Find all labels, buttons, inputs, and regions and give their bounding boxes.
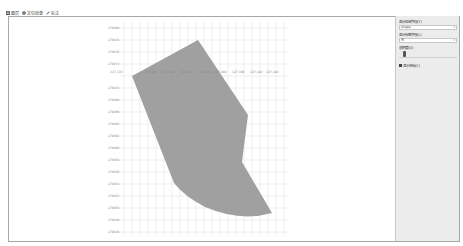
chevron-down-icon: ▾ <box>453 26 455 29</box>
svg-text:127.186: 127.186 <box>198 70 210 74</box>
slider-track <box>399 57 457 58</box>
area-field-value: shape <box>401 25 411 29</box>
svg-text:127.182: 127.182 <box>162 70 174 74</box>
svg-text:279074: 279074 <box>108 62 120 66</box>
svg-text:127.188: 127.188 <box>214 70 226 74</box>
svg-text:279058: 279058 <box>108 158 120 162</box>
checkbox-icon[interactable] <box>399 64 402 67</box>
svg-text:279076: 279076 <box>108 50 120 54</box>
svg-text:279056: 279056 <box>108 170 120 174</box>
map-plot[interactable]: 279080279078279076 279074279070279068 27… <box>0 0 463 246</box>
svg-text:279062: 279062 <box>108 134 120 138</box>
svg-text:279050: 279050 <box>108 206 120 210</box>
label-field-label: 显示标签字段(L) <box>399 32 422 37</box>
svg-text:279048: 279048 <box>108 218 120 222</box>
svg-text:279066: 279066 <box>108 110 120 114</box>
svg-text:279046: 279046 <box>108 230 120 234</box>
label-field-value: 无 <box>401 38 404 42</box>
svg-text:127.192: 127.192 <box>250 70 262 74</box>
svg-text:279054: 279054 <box>108 182 120 186</box>
transparency-slider[interactable] <box>399 51 457 56</box>
svg-text:127.194: 127.194 <box>266 70 278 74</box>
svg-text:279080: 279080 <box>108 26 120 30</box>
label-field-select[interactable]: 无 ▾ <box>399 38 457 43</box>
svg-text:279078: 279078 <box>108 38 120 42</box>
svg-text:279068: 279068 <box>108 98 120 102</box>
svg-text:279070: 279070 <box>108 86 120 90</box>
y-axis-labels: 279080279078279076 279074279070279068 27… <box>108 26 120 234</box>
svg-text:127.184: 127.184 <box>180 70 192 74</box>
svg-text:127.178: 127.178 <box>110 70 122 74</box>
slider-thumb[interactable] <box>403 51 406 57</box>
svg-text:279052: 279052 <box>108 194 120 198</box>
area-field-label: 显示区域字段(T) <box>399 19 422 24</box>
svg-text:279060: 279060 <box>108 146 120 150</box>
svg-text:127.190: 127.190 <box>232 70 244 74</box>
show-coordinates-checkbox[interactable]: 显示坐标(C) <box>399 63 420 68</box>
svg-text:279064: 279064 <box>108 122 120 126</box>
svg-text:127.180: 127.180 <box>144 70 156 74</box>
show-coordinates-label: 显示坐标(C) <box>403 63 420 68</box>
properties-panel: 显示区域字段(T) shape ▾ 显示标签字段(L) 无 ▾ 透明度(O) 显… <box>395 16 459 241</box>
area-field-select[interactable]: shape ▾ <box>399 25 457 30</box>
chevron-down-icon: ▾ <box>453 39 455 42</box>
transparency-label: 透明度(O) <box>399 45 414 50</box>
parcel-polygon <box>132 40 272 216</box>
